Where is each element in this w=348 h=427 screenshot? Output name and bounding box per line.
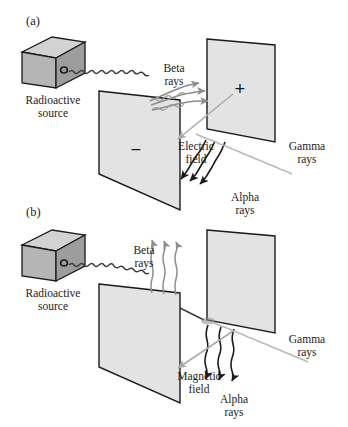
panel-b-gamma-label-line1: Gamma [289,333,325,345]
panel-b-source-cube-front [22,245,56,281]
panel-b-gamma-label-line2: rays [297,346,317,359]
panel-a-positive-sign: + [235,78,246,99]
panel-b-beta-label-line1: Beta [133,244,154,256]
panel-a-alpha-label-line2: rays [235,204,255,217]
panel-b-source-label-line2: source [38,300,68,312]
panel-b-alpha-label-line2: rays [224,406,244,419]
panel-b-source-label-line1: Radioactive [26,287,81,299]
panel-a-field-label-line1: Electric [178,140,214,152]
panel-a-field-label-line2: field [185,153,206,165]
panel-a-negative-sign: − [131,139,142,160]
figure-root: (a) + Radioactive source − [0,0,348,427]
panel-a-source-label-line2: source [38,107,68,119]
panel-a-gamma-label-line2: rays [297,153,317,166]
panel-a-source-label-line1: Radioactive [26,94,81,106]
panel-b-field-label-line2: field [188,383,209,395]
panel-b-back-plate-surface [207,230,275,333]
panel-a-beta-label-line2: rays [164,75,184,88]
panel-a-back-plate: + [207,39,275,142]
panel-b-field-label-line1: Magnetic [177,370,220,383]
radioactivity-deflection-diagram: (a) + Radioactive source − [0,0,348,427]
panel-a-source-cube-front [22,52,56,88]
panel-b-second-split-point [201,317,215,324]
panel-b-beta-label-line2: rays [134,257,154,270]
panel-b-back-plate [207,230,275,333]
panel-a-beta-label-line1: Beta [163,62,184,74]
panel-b-label: (b) [26,205,41,219]
panel-a-gamma-label-line1: Gamma [289,140,325,152]
panel-a-alpha-label-line1: Alpha [231,191,259,204]
panel-a-label: (a) [26,14,40,28]
panel-b-alpha-label-line1: Alpha [220,393,248,406]
